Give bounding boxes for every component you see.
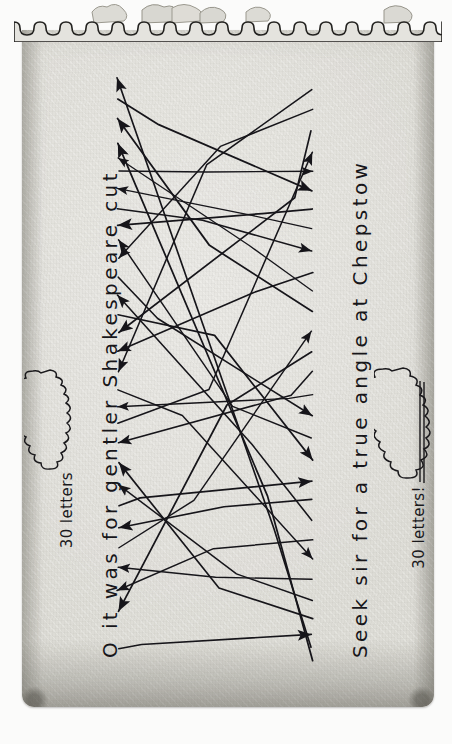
right-letter-count-label: 30 letters! [410, 486, 428, 569]
left-letter-count-label: 30 letters [58, 472, 76, 548]
left-phrase-text: O it was for gentler Shakespeare cut [98, 170, 122, 658]
torn-perforation-edge [14, 0, 442, 42]
screenshot-canvas: O it was for gentler Shakespeare cut See… [0, 0, 452, 744]
wavy-oval-outline-icon [374, 364, 432, 496]
right-letter-count-badge: 30 letters! [374, 364, 432, 496]
right-phrase-text: Seek sir for a true angle at Chepstow [348, 160, 372, 658]
left-letter-count-badge: 30 letters [24, 366, 76, 478]
notepad-paper-sheet [22, 30, 434, 707]
wavy-oval-outline-icon [24, 366, 76, 478]
